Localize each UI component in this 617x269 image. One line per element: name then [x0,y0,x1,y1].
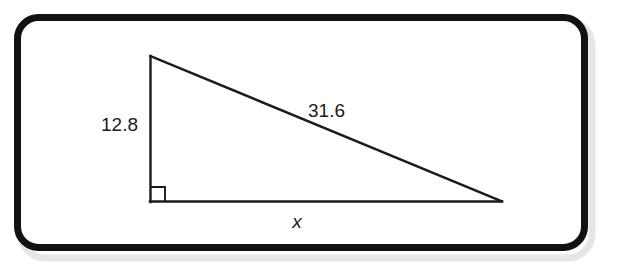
label-horizontal-leg: x [291,211,303,232]
figure-root: 12.8 31.6 x [0,0,617,269]
label-vertical-leg: 12.8 [101,114,138,135]
label-hypotenuse: 31.6 [308,100,345,121]
geometry-diagram-canvas: 12.8 31.6 x [0,0,617,269]
